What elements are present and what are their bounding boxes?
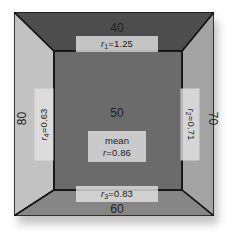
ratio-subscript-1: 1 xyxy=(104,43,108,50)
diagram-canvas: 40 r1=1.25 80 r4=0.63 70 r2=0.71 r3=0.83… xyxy=(0,0,234,242)
wall-top-ratio-chip: r1=1.25 xyxy=(76,36,158,52)
ratio-subscript-4: 4 xyxy=(43,133,50,137)
mean-ratio-line: r=0.86 xyxy=(93,147,141,158)
ratio-equals-1: =1.25 xyxy=(108,38,133,49)
wall-top-value: 40 xyxy=(0,22,234,35)
mean-ratio-equals: =0.86 xyxy=(106,147,131,158)
wall-bottom-ratio-chip: r3=0.83 xyxy=(76,186,158,202)
wall-bottom-value: 60 xyxy=(0,203,234,216)
mean-label: mean xyxy=(93,135,141,146)
ratio-symbol-r4: r xyxy=(38,137,49,140)
ratio-equals-3: =0.83 xyxy=(108,188,133,199)
ratio-subscript-3: 3 xyxy=(104,193,108,200)
wall-right-ratio-chip: r2=0.71 xyxy=(181,89,200,161)
wall-left-ratio-chip: r4=0.63 xyxy=(35,89,54,161)
center-mean-chip: mean r=0.86 xyxy=(88,131,146,162)
center-value: 50 xyxy=(0,107,234,120)
center-back-face xyxy=(54,51,182,190)
